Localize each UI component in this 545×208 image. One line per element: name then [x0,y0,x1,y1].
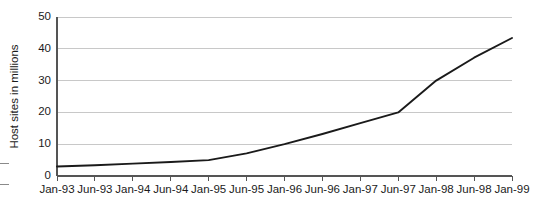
x-tick-label-Jan-98: Jan-98 [419,183,454,195]
x-tick-label-Jun-94: Jun-94 [153,183,189,195]
x-tick-label-Jan-95: Jan-95 [191,183,226,195]
x-tick-label-Jun-95: Jun-95 [229,183,264,195]
left-edge-crop-marks [0,163,9,184]
y-tick-label-0: 0 [45,169,51,181]
y-tick-label-10: 10 [38,137,51,149]
series-line-host-sites [57,38,512,166]
x-tick-label-Jan-96: Jan-96 [267,183,302,195]
y-axis-title: Host sites in millions [8,44,20,148]
data-series-group [57,38,512,166]
x-tick-label-Jun-97: Jun-97 [381,183,416,195]
x-tick-label-Jun-98: Jun-98 [456,183,491,195]
chart-canvas: 01020304050 Jan-93Jun-93Jan-94Jun-94Jan-… [0,0,545,208]
x-tick-label-Jan-97: Jan-97 [343,183,378,195]
x-tick-label-Jun-96: Jun-96 [305,183,340,195]
y-tick-label-30: 30 [38,74,51,86]
y-tick-labels-group: 01020304050 [38,10,51,181]
x-tick-label-Jan-99: Jan-99 [494,183,529,195]
x-tick-label-Jan-93: Jan-93 [39,183,74,195]
x-tick-label-Jun-93: Jun-93 [77,183,112,195]
gridlines-group [57,17,512,144]
axes-group [57,17,512,176]
y-tick-label-50: 50 [38,10,51,22]
x-tick-label-Jan-94: Jan-94 [115,183,151,195]
y-tick-label-20: 20 [38,105,51,117]
x-tick-labels-group: Jan-93Jun-93Jan-94Jun-94Jan-95Jun-95Jan-… [39,183,529,195]
y-axis-title-group: Host sites in millions [8,44,20,148]
y-tick-label-40: 40 [38,42,51,54]
line-chart: 01020304050 Jan-93Jun-93Jan-94Jun-94Jan-… [0,0,545,208]
x-tickmarks-group [57,176,512,181]
